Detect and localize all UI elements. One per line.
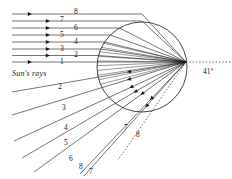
angle-label-41-degrees: 41° — [203, 68, 214, 76]
ray-out-6-arrowhead — [140, 91, 145, 95]
ray-in-1-arrowhead — [28, 60, 32, 64]
ray-out-5-arrowhead — [134, 89, 139, 93]
rainbow-raindrop-diagram: Sun's rays 41° 87654321 234568778 — [0, 0, 232, 179]
internal-ray-10 — [100, 62, 186, 84]
ray-in-2-arrowhead — [46, 54, 50, 58]
ray-in-6-arrowhead — [46, 26, 50, 30]
internal-ray-2 — [102, 47, 186, 62]
diagram-canvas — [0, 0, 232, 179]
ray-in-4-arrowhead — [46, 40, 50, 44]
raindrop-circle — [97, 22, 187, 112]
label-out-7-mid: 7 — [124, 124, 128, 132]
label-out-8-mid: 8 — [136, 131, 140, 139]
label-in-1: 1 — [60, 58, 64, 66]
dotted-angle — [118, 62, 186, 160]
ray-out-2-arrowhead — [127, 70, 131, 74]
ray-in-8-arrowhead — [28, 12, 32, 16]
label-in-3: 3 — [60, 45, 64, 53]
label-out-7-low: 7 — [89, 168, 93, 176]
ray-in-5-arrowhead — [46, 33, 50, 37]
ray-in-8-inside — [142, 14, 186, 62]
label-in-6: 6 — [74, 24, 78, 32]
label-out-4: 4 — [64, 124, 68, 132]
ray-out-7 — [80, 62, 186, 174]
label-in-8: 8 — [74, 8, 78, 16]
ray-in-3-arrowhead — [46, 47, 50, 51]
label-out-3: 3 — [62, 104, 66, 112]
internal-ray-9 — [99, 62, 186, 80]
internal-ray-3 — [100, 52, 186, 62]
label-out-2: 2 — [58, 83, 62, 91]
label-out-8-low: 8 — [79, 163, 83, 171]
dotted-reference-lines-group — [118, 62, 231, 160]
label-in-2: 2 — [74, 51, 78, 59]
suns-rays-caption: Sun's rays — [12, 70, 47, 78]
ray-out-6 — [34, 62, 186, 172]
label-in-7: 7 — [60, 16, 64, 24]
ray-out-8 — [84, 62, 186, 176]
raindrop-circle-group — [97, 22, 187, 112]
label-out-5: 5 — [64, 139, 68, 147]
label-in-5: 5 — [60, 31, 64, 39]
label-in-4: 4 — [74, 38, 78, 46]
ray-in-7-arrowhead — [46, 19, 50, 23]
label-out-6: 6 — [69, 155, 73, 163]
ray-out-3-arrowhead — [127, 77, 132, 81]
